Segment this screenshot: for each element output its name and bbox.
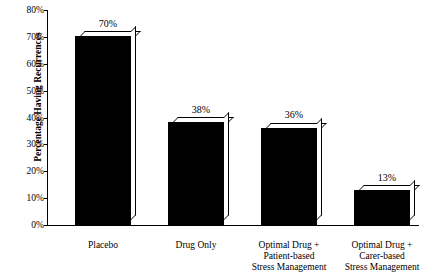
y-tick-mark — [44, 10, 48, 11]
y-tick-mark — [44, 225, 48, 226]
y-tick-mark — [44, 91, 48, 92]
bar-side-face — [410, 180, 415, 220]
x-axis-label-optimal-drug-carer: Optimal Drug + Carer-based Stress Manage… — [323, 240, 434, 272]
y-tick-mark — [44, 198, 48, 199]
bar-drug-only[interactable] — [168, 122, 224, 225]
y-tick-mark — [44, 144, 48, 145]
x-axis-label-line: Stress Management — [323, 262, 434, 272]
y-tick-mark — [44, 64, 48, 65]
bar-side-face — [224, 112, 229, 220]
x-axis-label-line: Optimal Drug + — [323, 240, 434, 251]
bar-optimal-drug-patient[interactable] — [261, 128, 317, 225]
bar-side-face — [317, 118, 322, 220]
y-tick-label-10: 10% — [27, 193, 44, 203]
y-tick-label-80: 80% — [27, 5, 44, 15]
plot-area: 0% 10% 20% 30% 40% 50% — [47, 10, 419, 226]
y-tick-label-50: 50% — [27, 86, 44, 96]
chart-container: Percentage Having Recurrences 0% 10% 20%… — [0, 0, 434, 272]
y-tick-label-40: 40% — [27, 113, 44, 123]
y-tick-label-0: 0% — [31, 220, 44, 230]
bar-side-face — [131, 26, 136, 220]
bar-value-label-drug-only: 38% — [168, 104, 234, 115]
bar-optimal-drug-carer[interactable] — [354, 190, 410, 225]
bar-placebo[interactable] — [75, 36, 131, 225]
y-tick-label-60: 60% — [27, 59, 44, 69]
x-axis-label-line: Carer-based — [323, 251, 434, 262]
y-tick-mark — [44, 37, 48, 38]
bar-value-label-optimal-drug-patient: 36% — [261, 109, 327, 120]
y-tick-mark — [44, 118, 48, 119]
y-tick-label-70: 70% — [27, 32, 44, 42]
bar-value-label-optimal-drug-carer: 13% — [354, 172, 420, 183]
y-tick-label-20: 20% — [27, 166, 44, 176]
y-tick-mark — [44, 171, 48, 172]
bar-value-label-placebo: 70% — [75, 18, 141, 29]
y-tick-label-30: 30% — [27, 139, 44, 149]
